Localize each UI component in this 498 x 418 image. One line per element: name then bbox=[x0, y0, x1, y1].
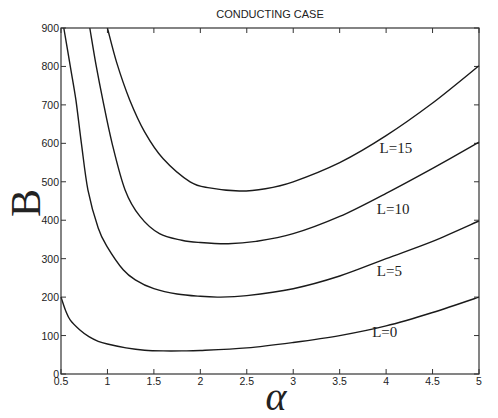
x-tick-label: 2 bbox=[197, 375, 203, 387]
curve-labels: L=0L=5L=10L=15 bbox=[372, 140, 412, 341]
curve-label: L=15 bbox=[380, 140, 413, 156]
x-tick-label: 3 bbox=[290, 375, 296, 387]
line-chart-svg: CONDUCTING CASE 0.511.522.533.544.550100… bbox=[0, 0, 498, 418]
curve-label: L=0 bbox=[372, 324, 397, 340]
y-tick-label: 500 bbox=[41, 176, 59, 188]
x-tick-label: 3.5 bbox=[332, 375, 347, 387]
y-tick-label: 100 bbox=[41, 330, 59, 342]
curve-label: L=10 bbox=[377, 201, 410, 217]
axis-ticks: 0.511.522.533.544.5501002003004005006007… bbox=[41, 22, 482, 387]
x-axis-label: α bbox=[266, 374, 288, 418]
y-tick-label: 600 bbox=[41, 137, 59, 149]
curve-l-5 bbox=[64, 28, 479, 297]
curves bbox=[61, 28, 479, 351]
plot-frame bbox=[61, 28, 479, 374]
y-tick-label: 700 bbox=[41, 99, 59, 111]
x-tick-label: 1 bbox=[105, 375, 111, 387]
chart: CONDUCTING CASE 0.511.522.533.544.550100… bbox=[0, 0, 498, 418]
y-tick-label: 900 bbox=[41, 22, 59, 34]
y-tick-label: 300 bbox=[41, 253, 59, 265]
curve-l-0 bbox=[61, 297, 479, 351]
x-tick-label: 4.5 bbox=[425, 375, 440, 387]
y-tick-label: 0 bbox=[53, 368, 59, 380]
curve-label: L=5 bbox=[377, 263, 402, 279]
x-tick-label: 2.5 bbox=[239, 375, 254, 387]
x-tick-label: 1.5 bbox=[147, 375, 162, 387]
x-tick-label: 4 bbox=[383, 375, 389, 387]
x-tick-label: 5 bbox=[476, 375, 482, 387]
curve-l-10 bbox=[90, 28, 479, 244]
chart-title: CONDUCTING CASE bbox=[216, 8, 324, 20]
y-axis-label: B bbox=[3, 189, 49, 217]
curve-l-15 bbox=[107, 28, 479, 191]
y-tick-label: 200 bbox=[41, 291, 59, 303]
y-tick-label: 800 bbox=[41, 60, 59, 72]
